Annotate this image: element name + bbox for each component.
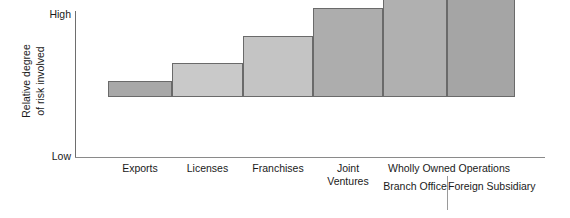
bar-joint-ventures xyxy=(313,8,383,97)
x-sublabel-foreign-subsidiary-line-1: Foreign xyxy=(448,180,484,192)
x-label-licenses-line-1: Licenses xyxy=(187,162,228,174)
bar-exports xyxy=(108,81,172,97)
x-sublabel-branch-office-line-1: Branch xyxy=(383,180,416,192)
x-sublabel-foreign-subsidiary: Foreign Subsidiary xyxy=(448,180,520,193)
x-group-label-wholly-owned-operations: Wholly Owned Operations xyxy=(383,162,515,175)
plot-area xyxy=(0,0,570,158)
x-label-franchises-line-1: Franchises xyxy=(252,162,303,174)
x-sublabel-foreign-subsidiary-line-2: Subsidiary xyxy=(487,180,536,192)
x-label-joint-ventures-line-1: Joint xyxy=(337,162,359,174)
x-label-exports: Exports xyxy=(108,162,172,175)
bar-franchises xyxy=(243,36,313,97)
bar-branch-office xyxy=(383,0,447,97)
risk-entry-mode-bar-chart: Relative degree of risk involved High Lo… xyxy=(0,0,570,218)
x-sublabel-branch-office-line-2: Office xyxy=(419,180,446,192)
x-label-joint-ventures-line-2: Ventures xyxy=(313,175,383,188)
x-label-licenses: Licenses xyxy=(172,162,243,175)
x-sublabel-branch-office: Branch Office xyxy=(383,180,447,193)
bar-foreign-subsidiary xyxy=(447,0,515,97)
x-label-exports-line-1: Exports xyxy=(122,162,158,174)
x-label-franchises: Franchises xyxy=(243,162,313,175)
x-label-joint-ventures: Joint Ventures xyxy=(313,162,383,189)
bar-licenses xyxy=(172,63,243,97)
